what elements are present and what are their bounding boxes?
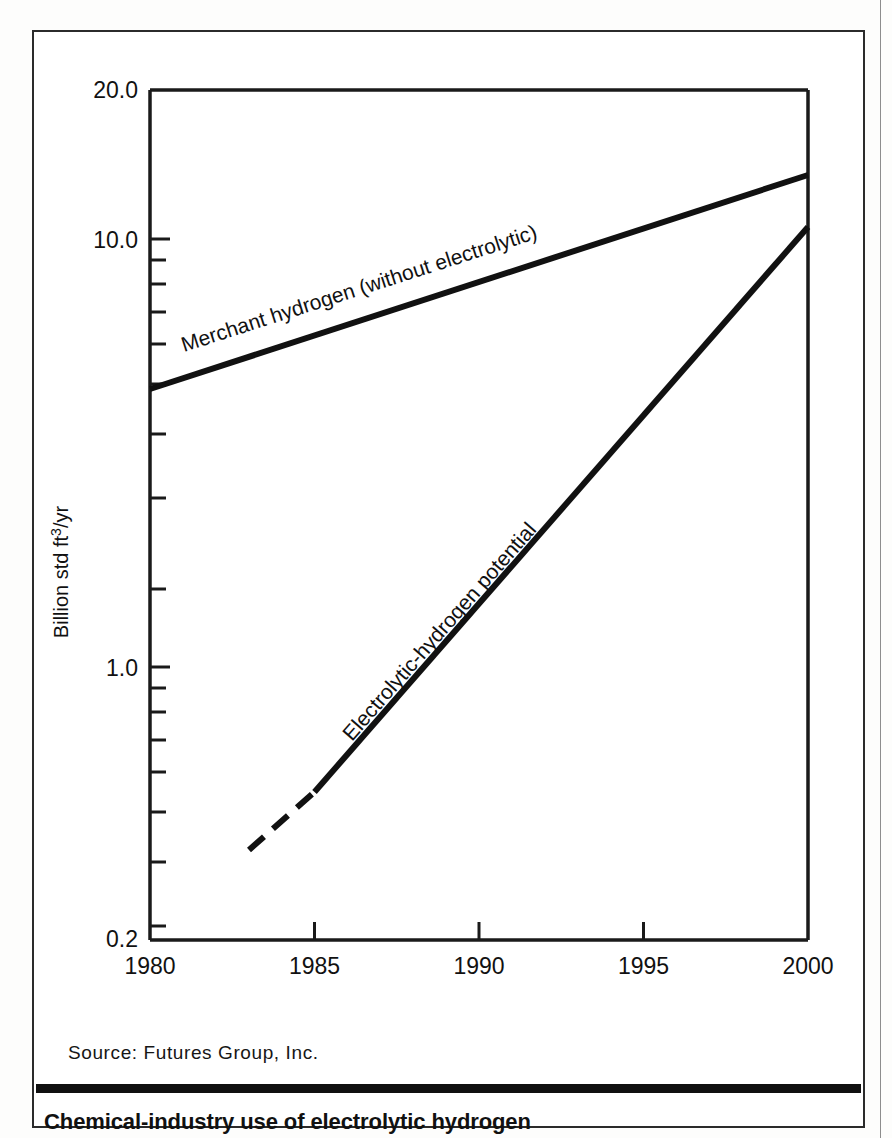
figure-caption: Chemical-industry use of electrolytic hy…	[44, 1109, 854, 1135]
series-line-merchant-hydrogen	[150, 175, 808, 389]
source-row: Source: Futures Group, Inc.	[34, 1042, 863, 1086]
x-tick-label-1995: 1995	[618, 953, 669, 979]
x-tick-label-1980: 1980	[124, 953, 175, 979]
y-tick-label-20: 20.0	[93, 77, 138, 103]
y-axis-title: Billion std ft3/yr	[48, 506, 72, 639]
y-axis-major-ticks	[150, 239, 170, 667]
source-text: Source: Futures Group, Inc.	[68, 1042, 319, 1064]
y-axis-title-prefix: Billion std ft	[50, 535, 72, 638]
y-axis-minor-ticks	[150, 260, 166, 926]
series-label-electrolytic-hydrogen: Electrolytic-hydrogen potential	[338, 518, 541, 745]
series-line-electrolytic-dashed	[249, 792, 315, 850]
chart-area: 20.0 10.0 1.0 0.2 1980 1985 1990 1995 20…	[34, 32, 863, 992]
caption-divider-rule	[36, 1084, 861, 1093]
page-edge-rule	[880, 0, 881, 1138]
y-axis-title-superscript: 3	[48, 528, 64, 536]
x-axis-ticks	[315, 922, 644, 940]
y-tick-label-0-2: 0.2	[106, 926, 138, 952]
y-axis-title-suffix: /yr	[50, 506, 72, 529]
figure-page: 20.0 10.0 1.0 0.2 1980 1985 1990 1995 20…	[0, 0, 892, 1138]
x-tick-label-2000: 2000	[782, 953, 833, 979]
line-chart: 20.0 10.0 1.0 0.2 1980 1985 1990 1995 20…	[34, 32, 863, 992]
y-tick-label-1: 1.0	[106, 655, 138, 681]
plot-frame	[150, 90, 808, 940]
series-label-merchant-hydrogen: Merchant hydrogen (without electrolytic)	[178, 220, 540, 356]
svg-text:Billion std ft3/yr: Billion std ft3/yr	[48, 506, 72, 639]
figure-box: 20.0 10.0 1.0 0.2 1980 1985 1990 1995 20…	[32, 30, 865, 1128]
y-tick-label-10: 10.0	[93, 227, 138, 253]
x-tick-label-1985: 1985	[289, 953, 340, 979]
x-tick-label-1990: 1990	[453, 953, 504, 979]
